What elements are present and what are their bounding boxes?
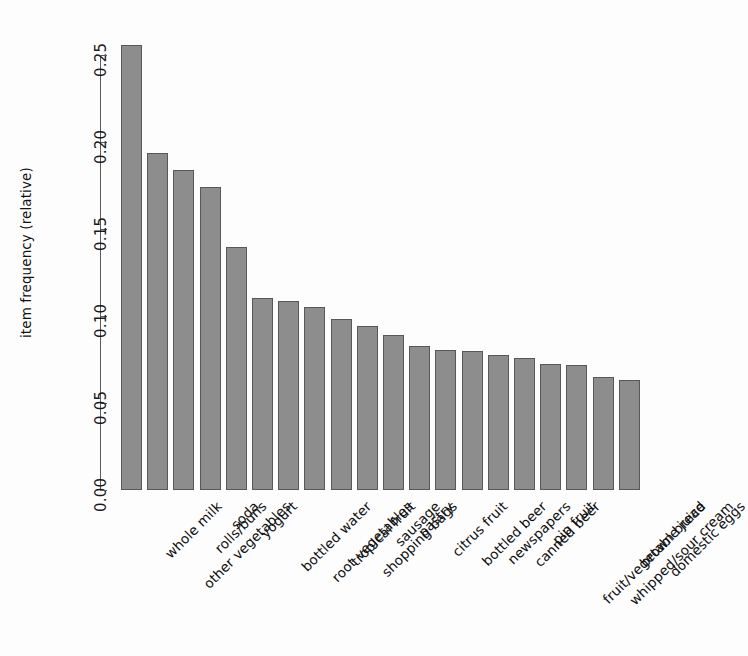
bar (383, 335, 404, 490)
y-axis-tick-label: 0.10 (92, 304, 110, 338)
x-axis-label: fruit/vegetable juice (599, 498, 708, 607)
bar (252, 298, 273, 490)
y-axis-title: item frequency (relative) (18, 167, 34, 338)
bar (514, 358, 535, 490)
x-axis-label: whipped/sour cream (626, 498, 736, 608)
y-axis-tick-label: 0.15 (92, 217, 110, 251)
bar (331, 319, 352, 490)
y-axis-tick-label: 0.25 (92, 43, 110, 77)
bar (121, 45, 142, 490)
x-axis-label: pip fruit (548, 498, 597, 547)
plot-area (121, 20, 661, 490)
bar (173, 170, 194, 490)
bar (566, 365, 587, 490)
x-axis-label: rolls/buns (211, 498, 269, 556)
bar (147, 153, 168, 490)
x-axis-label: whole milk (161, 498, 224, 561)
bar (409, 346, 430, 490)
y-axis-cap (100, 55, 107, 56)
bar (619, 380, 640, 490)
bar (435, 350, 456, 490)
x-axis-label: yogurt (257, 498, 300, 541)
y-axis-cap (100, 490, 107, 491)
bar (278, 301, 299, 490)
x-axis-label: citrus fruit (448, 498, 510, 560)
x-axis-label: bottled water (297, 498, 373, 574)
x-axis-label: root vegetables (328, 498, 415, 585)
bar (226, 247, 247, 490)
x-axis-label: sausage (392, 498, 443, 549)
x-axis-label: canned beer (531, 498, 603, 570)
bar (304, 307, 325, 490)
y-axis-tick-label: 0.00 (92, 478, 110, 512)
x-axis-label: shopping bags (378, 498, 460, 580)
x-axis-label: pastry (414, 498, 456, 540)
bar (593, 377, 614, 490)
bar (200, 187, 221, 490)
x-axis-label: soda (228, 498, 262, 532)
x-axis-label: bottled beer (479, 498, 550, 569)
bar (357, 326, 378, 490)
bar (488, 355, 509, 490)
x-axis-label: tropical fruit (348, 498, 419, 569)
y-axis-tick-label: 0.05 (92, 391, 110, 425)
y-axis-tick-label: 0.20 (92, 130, 110, 164)
x-axis-label: domestic eggs (667, 498, 748, 580)
x-axis-label: newspapers (504, 498, 573, 567)
x-axis-label: other vegetables (200, 498, 294, 592)
bar (462, 351, 483, 490)
bar (540, 364, 561, 490)
x-axis-label: brown bread (636, 498, 708, 570)
